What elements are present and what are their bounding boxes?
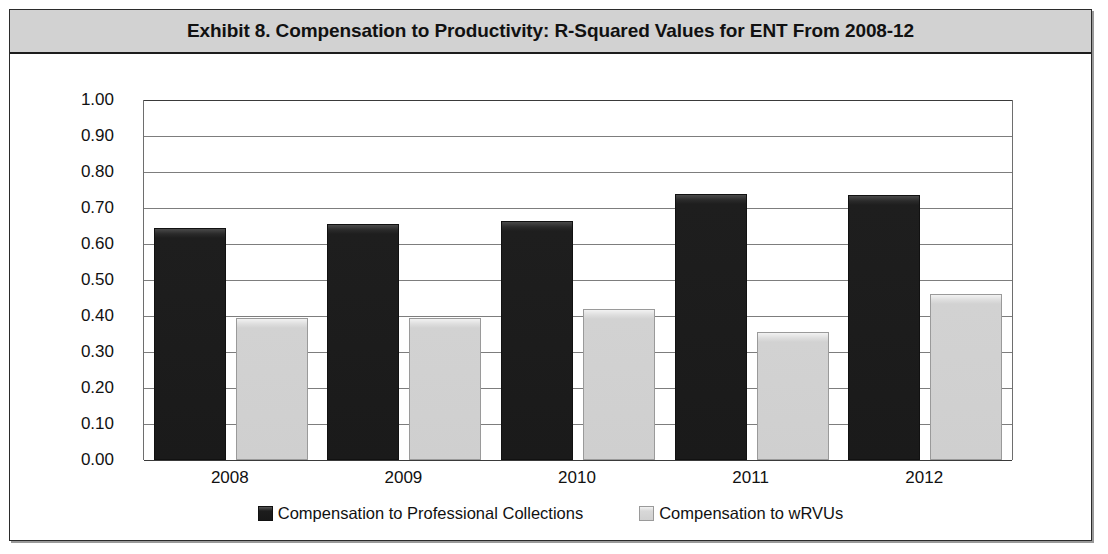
bar-group-2010 xyxy=(491,100,665,460)
chart-body: 1.000.900.800.700.600.500.400.300.200.10… xyxy=(10,54,1091,540)
gridline xyxy=(144,460,1012,461)
plot-area xyxy=(143,100,1013,460)
bar-2008-series2[interactable] xyxy=(236,318,308,460)
y-axis-tick-label: 0.20 xyxy=(81,378,114,398)
exhibit-frame: Exhibit 8. Compensation to Productivity:… xyxy=(9,9,1092,541)
legend-swatch-icon xyxy=(258,506,273,521)
chart-legend: Compensation to Professional Collections… xyxy=(10,504,1091,523)
legend-label: Compensation to Professional Collections xyxy=(278,504,583,523)
bar-group-2008 xyxy=(144,100,318,460)
legend-label: Compensation to wRVUs xyxy=(659,504,843,523)
y-axis-tick-label: 0.40 xyxy=(81,306,114,326)
x-axis-tick-label: 2010 xyxy=(558,468,596,488)
y-axis-labels: 1.000.900.800.700.600.500.400.300.200.10… xyxy=(48,54,114,540)
x-axis-tick-label: 2008 xyxy=(211,468,249,488)
page-title: Exhibit 8. Compensation to Productivity:… xyxy=(187,20,914,42)
y-axis-tick-label: 0.00 xyxy=(81,450,114,470)
y-axis-tick-label: 0.30 xyxy=(81,342,114,362)
chart-plot-wrapper: 1.000.900.800.700.600.500.400.300.200.10… xyxy=(10,54,1091,540)
bars-layer xyxy=(144,100,1012,460)
y-axis-tick-label: 0.50 xyxy=(81,270,114,290)
y-axis-tick-label: 0.80 xyxy=(81,162,114,182)
y-axis-tick-label: 0.90 xyxy=(81,126,114,146)
bar-group-2012 xyxy=(838,100,1012,460)
y-axis-tick-label: 0.10 xyxy=(81,414,114,434)
bar-2010-series2[interactable] xyxy=(583,309,655,460)
bar-2011-series2[interactable] xyxy=(757,332,829,460)
y-axis-tick-label: 1.00 xyxy=(81,90,114,110)
bar-2010-series1[interactable] xyxy=(501,221,573,460)
bar-2012-series2[interactable] xyxy=(930,294,1002,460)
bar-group-2011 xyxy=(665,100,839,460)
legend-swatch-icon xyxy=(639,506,654,521)
bar-2011-series1[interactable] xyxy=(675,194,747,460)
legend-item-1[interactable]: Compensation to Professional Collections xyxy=(258,504,583,523)
x-axis-tick-label: 2009 xyxy=(384,468,422,488)
bar-2012-series1[interactable] xyxy=(848,195,920,460)
bar-2009-series1[interactable] xyxy=(327,224,399,460)
bar-2008-series1[interactable] xyxy=(154,228,226,460)
bar-2009-series2[interactable] xyxy=(409,318,481,460)
legend-item-2[interactable]: Compensation to wRVUs xyxy=(639,504,843,523)
x-axis-tick-label: 2011 xyxy=(732,468,769,488)
exhibit-title-bar: Exhibit 8. Compensation to Productivity:… xyxy=(10,10,1091,54)
y-axis-tick-label: 0.60 xyxy=(81,234,114,254)
y-axis-tick-label: 0.70 xyxy=(81,198,114,218)
x-axis-labels: 20082009201020112012 xyxy=(143,468,1011,498)
bar-group-2009 xyxy=(318,100,492,460)
x-axis-tick-label: 2012 xyxy=(905,468,943,488)
